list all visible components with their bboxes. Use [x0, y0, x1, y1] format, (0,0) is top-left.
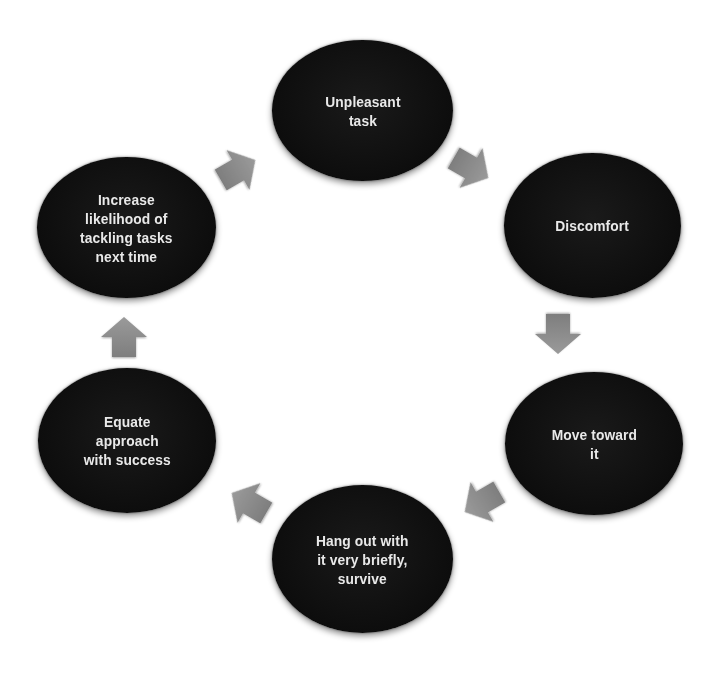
- node-label: Move toward it: [551, 425, 636, 463]
- node-label: Unpleasant task: [325, 92, 400, 130]
- node-label: Increase likelihood of tackling tasks ne…: [80, 190, 173, 266]
- node-unpleasant-task: Unpleasant task: [272, 40, 453, 181]
- arrow-up-left-icon: [217, 470, 280, 535]
- cycle-diagram: Unpleasant task Discomfort Move toward i…: [0, 0, 719, 676]
- arrow-down-right-icon: [439, 135, 502, 200]
- arrow-up-icon: [99, 315, 149, 359]
- node-equate-approach: Equate approach with success: [38, 368, 216, 513]
- node-move-toward-it: Move toward it: [505, 372, 683, 515]
- node-label: Discomfort: [556, 216, 630, 235]
- arrow-down-left-icon: [450, 469, 513, 534]
- node-discomfort: Discomfort: [504, 153, 681, 298]
- node-hang-out: Hang out with it very briefly, survive: [272, 485, 453, 633]
- node-label: Hang out with it very briefly, survive: [316, 531, 408, 588]
- node-increase-likelihood: Increase likelihood of tackling tasks ne…: [37, 157, 216, 298]
- arrow-up-right-icon: [206, 137, 269, 202]
- node-label: Equate approach with success: [83, 412, 170, 469]
- arrow-down-icon: [533, 312, 583, 356]
